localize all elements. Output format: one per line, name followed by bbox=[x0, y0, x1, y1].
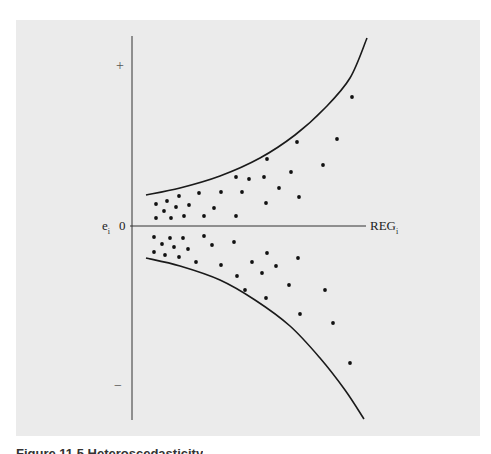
data-point bbox=[212, 206, 216, 210]
data-points bbox=[152, 95, 354, 365]
data-point bbox=[152, 235, 156, 239]
data-point bbox=[234, 214, 238, 218]
y-plus-label: + bbox=[116, 59, 124, 73]
data-point bbox=[243, 288, 247, 292]
data-point bbox=[321, 163, 325, 167]
data-point bbox=[298, 312, 302, 316]
data-point bbox=[181, 236, 185, 240]
data-point bbox=[265, 251, 269, 255]
data-point bbox=[177, 194, 181, 198]
y-axis-label: ei bbox=[102, 219, 110, 236]
residual-scatter-plot bbox=[0, 0, 491, 454]
data-point bbox=[172, 245, 176, 249]
x-axis-label: REGi bbox=[370, 219, 398, 236]
data-point bbox=[264, 201, 268, 205]
data-point bbox=[348, 361, 352, 365]
data-point bbox=[154, 202, 158, 206]
y-minus-label: − bbox=[114, 379, 122, 393]
data-point bbox=[168, 236, 172, 240]
y-zero-label: 0 bbox=[119, 219, 126, 232]
figure-caption-clipped: Figure 11.5 Heteroscedasticity bbox=[16, 446, 203, 454]
data-point bbox=[247, 177, 251, 181]
data-point bbox=[296, 256, 300, 260]
data-point bbox=[197, 191, 201, 195]
data-point bbox=[219, 263, 223, 267]
data-point bbox=[295, 140, 299, 144]
data-point bbox=[194, 260, 198, 264]
data-point bbox=[235, 274, 239, 278]
data-point bbox=[154, 216, 158, 220]
data-point bbox=[163, 253, 167, 257]
data-point bbox=[210, 243, 214, 247]
data-point bbox=[323, 288, 327, 292]
data-point bbox=[262, 175, 266, 179]
data-point bbox=[182, 214, 186, 218]
data-point bbox=[250, 260, 254, 264]
envelope-curves bbox=[146, 38, 367, 419]
data-point bbox=[287, 283, 291, 287]
data-point bbox=[152, 250, 156, 254]
data-point bbox=[187, 203, 191, 207]
data-point bbox=[240, 190, 244, 194]
data-point bbox=[232, 240, 236, 244]
upper-envelope-curve bbox=[146, 38, 367, 195]
data-point bbox=[350, 95, 354, 99]
axes bbox=[130, 36, 366, 420]
data-point bbox=[277, 186, 281, 190]
data-point bbox=[335, 137, 339, 141]
data-point bbox=[202, 234, 206, 238]
data-point bbox=[169, 216, 173, 220]
data-point bbox=[274, 264, 278, 268]
data-point bbox=[331, 321, 335, 325]
data-point bbox=[234, 175, 238, 179]
data-point bbox=[162, 209, 166, 213]
data-point bbox=[297, 195, 301, 199]
data-point bbox=[265, 157, 269, 161]
data-point bbox=[174, 205, 178, 209]
data-point bbox=[219, 190, 223, 194]
data-point bbox=[202, 214, 206, 218]
data-point bbox=[160, 242, 164, 246]
data-point bbox=[264, 296, 268, 300]
data-point bbox=[260, 271, 264, 275]
lower-envelope-curve bbox=[146, 258, 364, 419]
data-point bbox=[165, 199, 169, 203]
data-point bbox=[289, 170, 293, 174]
data-point bbox=[186, 247, 190, 251]
data-point bbox=[177, 255, 181, 259]
